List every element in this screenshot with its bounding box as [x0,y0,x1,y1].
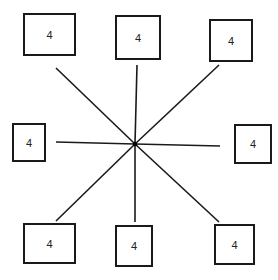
node-left: 4 [12,123,46,162]
node-bottom: 4 [115,225,153,267]
star-diagram: 4 4 4 4 4 4 4 4 [0,0,278,280]
center-hub [133,142,137,146]
node-label: 4 [46,238,52,250]
node-label: 4 [250,138,256,150]
node-top-left: 4 [23,13,76,56]
node-label: 4 [228,35,234,47]
line-top-right [135,65,219,144]
node-bottom-left: 4 [23,223,76,264]
line-top-left [56,68,135,144]
node-right: 4 [234,124,272,164]
line-bottom-left [56,144,135,221]
node-top: 4 [115,15,161,60]
node-label: 4 [26,137,32,149]
line-right [135,144,220,146]
line-bottom-right [135,144,219,222]
node-bottom-right: 4 [214,224,255,265]
line-top [135,65,137,144]
node-label: 4 [131,240,137,252]
node-label: 4 [231,239,237,251]
node-label: 4 [46,29,52,41]
node-label: 4 [135,32,141,44]
line-left [56,142,135,144]
node-top-right: 4 [209,19,253,62]
